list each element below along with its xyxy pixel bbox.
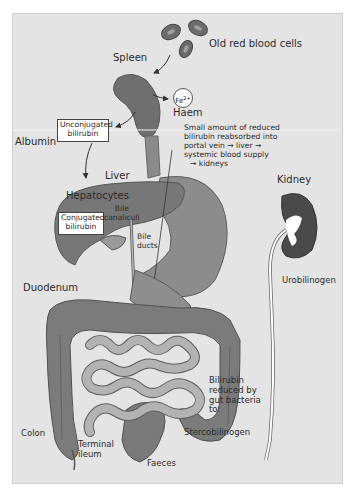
label-old-red-blood-cells: Old red blood cells <box>209 38 302 50</box>
label-bile-ducts: Bile ducts <box>137 232 158 250</box>
anatomy-illustration <box>0 0 354 496</box>
fe-ion-icon: Fe2+ <box>173 88 193 108</box>
label-bile-canaliculi: Bile canaliculi <box>104 204 140 222</box>
label-hepatocytes: Hepatocytes <box>66 190 129 202</box>
label-urobilinogen: Urobilinogen <box>282 276 336 286</box>
label-kidney: Kidney <box>277 174 311 186</box>
label-reabsorption-note: Small amount of reduced bilirubin reabso… <box>184 123 280 169</box>
conjugated-bilirubin-box: Conjugated bilirubin <box>58 212 104 235</box>
label-haem: Haem <box>173 107 203 119</box>
unconjugated-bilirubin-box: Unconjugated bilirubin <box>57 119 109 142</box>
label-stercobilinogen: Stercobilinogen <box>184 428 250 438</box>
label-bilirubin-reduced: Bilirubin reduced by gut bacteria to: <box>209 376 261 415</box>
label-faeces: Faeces <box>147 459 176 469</box>
label-colon: Colon <box>21 429 45 439</box>
spleen-shape <box>113 74 160 137</box>
label-liver: Liver <box>105 170 130 182</box>
label-terminal-ileum: Terminal ileum <box>78 440 114 460</box>
red-blood-cells-icon <box>159 17 210 59</box>
label-albumin: Albumin <box>15 136 56 148</box>
label-spleen: Spleen <box>113 52 147 64</box>
label-duodenum: Duodenum <box>23 282 78 294</box>
